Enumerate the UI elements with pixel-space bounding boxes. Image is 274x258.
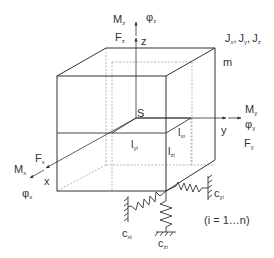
ground-hatch-left (124, 198, 128, 221)
label-phix: φx (22, 187, 32, 200)
spring-czi (160, 191, 172, 232)
label-inertia: Jx,Jy,Jz (225, 32, 261, 45)
label-y-axis: y (221, 124, 227, 136)
label-phiy: φy (245, 118, 255, 131)
label-My: My (245, 103, 257, 116)
ground-hatch-bottom (155, 232, 173, 236)
label-cyi: cyi (214, 187, 224, 200)
label-lxi: lxi (178, 126, 185, 139)
rigid-body-spring-diagram: Mz φz Fz z Jx,Jy,Jz m S y My φy Fy lxi l… (0, 0, 274, 258)
label-czi: czi (158, 237, 168, 250)
springs (124, 175, 212, 236)
x-axis-line (46, 118, 136, 168)
label-z-axis: z (141, 35, 147, 47)
label-Fx: Fx (35, 152, 45, 165)
x-axis-moment-arrow (30, 170, 44, 178)
lever-arm-lines (57, 118, 191, 133)
label-mass: m (223, 56, 232, 68)
label-center-S: S (137, 107, 144, 119)
label-cxi: cxi (122, 227, 132, 240)
ground-hatch-right (208, 175, 212, 198)
spring-cxi (128, 191, 166, 210)
label-lyi: lyi (131, 138, 138, 151)
label-Fz: Fz (115, 31, 125, 44)
label-lzi: lzi (168, 145, 175, 158)
label-Fy: Fy (244, 137, 254, 150)
label-x-axis: x (44, 175, 50, 187)
label-Mx: Mx (14, 163, 26, 176)
label-index-range: (i = 1…n) (204, 214, 250, 226)
axes (30, 22, 241, 178)
label-Mz: Mz (113, 13, 125, 26)
label-phiz: φz (146, 11, 156, 24)
